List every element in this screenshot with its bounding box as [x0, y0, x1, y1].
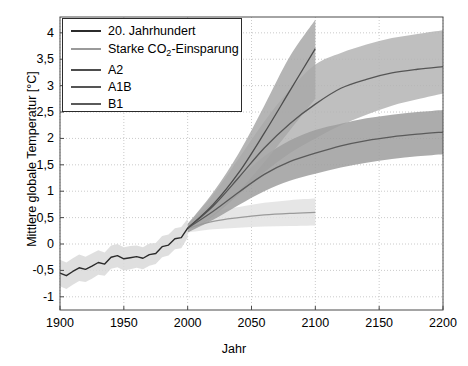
- legend-item[interactable]: A1B: [71, 81, 132, 94]
- chart-figure: Mittlere globale Temperatur [°C] Jahr -1…: [0, 0, 468, 366]
- y-tick-label: 1,5: [14, 158, 54, 172]
- y-tick-label: -1: [14, 290, 54, 304]
- legend-line-swatch: [71, 48, 101, 50]
- x-tick-label: 2000: [158, 316, 218, 330]
- legend-line-swatch: [71, 86, 101, 88]
- y-tick-label: 3,5: [14, 52, 54, 66]
- y-tick-label: -0,5: [14, 263, 54, 277]
- x-tick-label: 2150: [349, 316, 409, 330]
- legend-label: B1: [108, 98, 123, 111]
- x-axis-label: Jahr: [0, 342, 468, 356]
- x-tick-label: 2050: [222, 316, 282, 330]
- x-tick-label: 1900: [30, 316, 90, 330]
- y-tick-label: 3: [14, 79, 54, 93]
- legend-line-swatch: [71, 103, 101, 105]
- x-tick-label: 1950: [94, 316, 154, 330]
- legend-item[interactable]: A2: [71, 64, 123, 77]
- y-tick-label: 0: [14, 237, 54, 251]
- legend-item[interactable]: B1: [71, 98, 123, 111]
- y-tick-label: 2: [14, 131, 54, 145]
- legend-label: A2: [108, 64, 123, 77]
- legend-item[interactable]: 20. Jahrhundert: [71, 25, 196, 38]
- x-tick-label: 2200: [413, 316, 468, 330]
- legend-line-swatch: [71, 69, 101, 71]
- legend-item[interactable]: Starke CO2-Einsparung: [71, 43, 239, 56]
- y-tick-label: 4: [14, 26, 54, 40]
- legend-line-swatch: [71, 30, 101, 32]
- legend-label: Starke CO2-Einsparung: [108, 43, 239, 56]
- legend-label: 20. Jahrhundert: [108, 25, 196, 38]
- x-tick-label: 2100: [285, 316, 345, 330]
- y-tick-label: 0,5: [14, 211, 54, 225]
- y-tick-label: 1: [14, 184, 54, 198]
- chart-legend: 20. JahrhundertStarke CO2-EinsparungA2A1…: [62, 18, 242, 112]
- legend-label: A1B: [108, 81, 132, 94]
- y-tick-label: 2,5: [14, 105, 54, 119]
